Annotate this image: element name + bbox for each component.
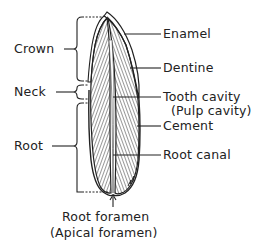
label-root-foramen: Root foramen — [62, 210, 149, 223]
label-tooth-cavity: Tooth cavity — [163, 90, 241, 103]
label-pulp-cavity: (Pulp cavity) — [171, 104, 252, 117]
neck-bracket — [73, 85, 88, 99]
label-enamel: Enamel — [163, 27, 211, 40]
label-root-canal: Root canal — [163, 148, 231, 161]
label-apical-foramen: (Apical foramen) — [50, 226, 158, 239]
label-crown: Crown — [14, 42, 54, 55]
label-root: Root — [14, 139, 43, 152]
label-cement: Cement — [163, 119, 213, 132]
label-dentine: Dentine — [163, 61, 214, 74]
tooth-diagram: Crown Neck Root Enamel Dentine Tooth cav… — [0, 0, 263, 245]
label-neck: Neck — [14, 85, 46, 98]
